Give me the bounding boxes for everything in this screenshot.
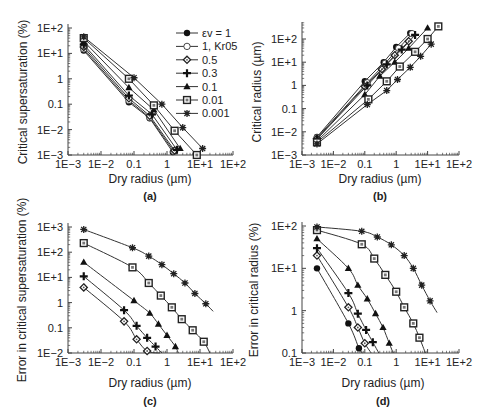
legend-label: εv = 1 (202, 27, 231, 39)
panel-d-series-marker (382, 271, 389, 278)
legend-label: 1, Kr05 (202, 40, 237, 52)
panel-c-xtick-label: 1E+1 (187, 356, 213, 368)
panel-d-series-marker (427, 297, 434, 304)
panel-b-ytick-label: 1 (291, 79, 297, 91)
panel-d-series-marker (374, 233, 381, 240)
panel-a-xlabel: Dry radius (µm) (109, 172, 192, 186)
panel-d-series-marker (358, 241, 365, 248)
panel-d-xtick-label: 1E−2 (320, 356, 346, 368)
panel-d-xlabel: Dry radius (µm) (342, 376, 425, 390)
panel-a-ytick-label: 0.1 (48, 98, 63, 110)
panel-d-series-marker (410, 320, 417, 327)
panel-d-xtick-label: 0.1 (357, 356, 372, 368)
panel-b-ytick-label: 0.1 (282, 103, 297, 115)
panel-d-series-marker (416, 334, 423, 341)
panel-c-ytick-label: 1 (57, 297, 63, 309)
panel-a-ylabel: Critical supersaturation (%) (16, 20, 30, 165)
panel-d-ytick-label: 1 (291, 305, 297, 317)
panel-c-series-marker (158, 261, 165, 268)
panel-c-xtick-label: 0.1 (126, 356, 141, 368)
panel-a-xtick-label: 1E+2 (220, 158, 246, 170)
panel-c-series-marker (202, 300, 209, 307)
panel-d-ylabel: Error in critical radius (%) (247, 223, 261, 358)
panel-b-ytick-label: 1E+2 (271, 33, 297, 45)
panel-c-series-marker (80, 226, 87, 233)
panel-b-xtick-label: 0.1 (357, 158, 372, 170)
panel-a-series-marker (199, 145, 206, 152)
panel-b-series-marker (394, 76, 401, 83)
panel-b-label: (b) (373, 190, 387, 202)
panel-d-ytick-label: 1E+2 (271, 220, 297, 232)
panel-b-series-marker (383, 78, 390, 85)
panel-a-ytick-label: 1E+1 (37, 47, 63, 59)
panel-b-series-marker (424, 36, 431, 43)
panel-c-series-marker (191, 290, 198, 297)
panel-b-ylabel: Critical radius (µm) (250, 42, 264, 143)
panel-b-xtick-label: 1E+1 (415, 158, 441, 170)
panel-d-xtick-label: 1 (393, 356, 399, 368)
panel-d-series-marker (401, 252, 408, 259)
panel-b-ytick-label: 1E−3 (271, 149, 297, 161)
panel-b-series-marker (412, 48, 419, 55)
panel-d-xtick-label: 1E+1 (415, 356, 441, 368)
panel-b-ytick-label: 1E+1 (271, 56, 297, 68)
panel-b-xtick-label: 1E−2 (320, 158, 346, 170)
panel-b-series-marker (364, 101, 371, 108)
panel-b-series-marker (435, 23, 442, 30)
panel-c-series-marker (178, 316, 185, 323)
legend-label: 0.1 (202, 81, 217, 93)
panel-b-ytick-label: 1E−2 (271, 126, 297, 138)
panel-a-xtick-label: 0.1 (126, 158, 141, 170)
legend-label: 0.5 (202, 54, 217, 66)
panel-b-xtick-label: 1E+2 (446, 158, 472, 170)
panel-c-series-marker (189, 327, 196, 334)
panel-b-series-marker (417, 53, 424, 60)
panel-c-xtick-label: 1E+2 (220, 356, 246, 368)
panel-b-series-marker (313, 140, 320, 147)
panel-b-xtick-label: 1 (393, 158, 399, 170)
panel-c-ytick-label: 1E+2 (37, 246, 63, 258)
panel-c-series-marker (80, 240, 87, 247)
panel-c-series-marker (181, 279, 188, 286)
panel-a-xtick-label: 1E+1 (187, 158, 213, 170)
panel-c-series-marker (129, 264, 136, 271)
figure-canvas: 1E−31E−20.111E+11E+21E−31E−20.111E+11E+2… (0, 0, 489, 418)
legend-label: 0.3 (202, 67, 217, 79)
legend-marker (184, 30, 190, 36)
panel-c-series-marker (145, 253, 152, 260)
panel-d-series-marker (371, 255, 378, 262)
panel-a-label: (a) (143, 190, 157, 202)
panel-d-series-marker (410, 265, 417, 272)
panel-d-series-marker (356, 345, 362, 351)
panel-a-ytick-label: 1E−3 (37, 149, 63, 161)
panel-d-series-marker (358, 228, 365, 235)
panel-d-label: (d) (376, 395, 390, 407)
panel-c-ylabel: Error in critical supersaturation (%) (15, 198, 29, 383)
panel-a-series-marker (179, 124, 186, 131)
panel-a-xtick-label: 1E−2 (88, 158, 114, 170)
panel-c-ytick-label: 1E+3 (37, 221, 63, 233)
panel-c-series-marker (129, 244, 136, 251)
panel-c-xlabel: Dry radius (µm) (109, 376, 192, 390)
panel-a-series-marker (80, 33, 87, 40)
panel-d-series-marker (388, 241, 395, 248)
panel-d-series-marker (418, 282, 425, 289)
panel-c-ytick-label: 0.1 (48, 322, 63, 334)
panel-d-series-marker (393, 288, 400, 295)
panel-a-series-marker (150, 102, 157, 109)
panel-c-ytick-label: 1E+1 (37, 271, 63, 283)
panel-a-xtick-label: 1 (164, 158, 170, 170)
panel-b-series-marker (396, 63, 403, 70)
panel-c-ytick-label: 1E−2 (37, 347, 63, 359)
panel-d-series-marker (314, 265, 320, 271)
panel-c-series-marker (145, 280, 152, 287)
panel-a-series-marker (131, 74, 138, 81)
panel-c-series-marker (168, 304, 175, 311)
panel-b-series-marker (383, 87, 390, 94)
panel-d-ytick-label: 0.1 (282, 347, 297, 359)
panel-a-ytick-label: 1E+2 (37, 22, 63, 34)
panel-d-series-marker (313, 223, 320, 230)
panel-c-xtick-label: 1 (164, 356, 170, 368)
legend-marker (184, 110, 191, 117)
panel-d-series-marker (345, 320, 351, 326)
